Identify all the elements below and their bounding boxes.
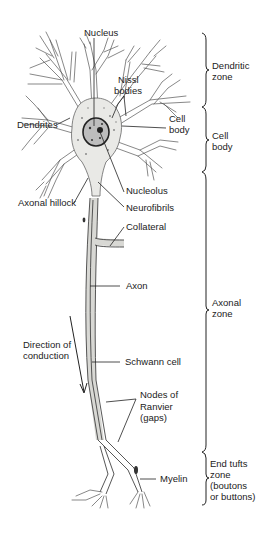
neuron-diagram: Nucleus Nissl bodies Cell body Dendrites… <box>0 0 264 541</box>
label-nodes-1: Nodes of <box>140 389 178 400</box>
label-dendrites: Dendrites <box>17 119 58 130</box>
label-direction-1: Direction of <box>23 339 71 350</box>
brace-cell-body <box>202 107 209 172</box>
label-nissl-1: Nissl <box>118 74 139 85</box>
zone-cellbody-1: Cell <box>212 130 228 141</box>
structure-labels: Nucleus Nissl bodies Cell body Dendrites… <box>17 27 190 484</box>
label-direction-2: conduction <box>23 350 69 361</box>
zone-endtufts-3: (boutons <box>210 480 247 491</box>
zone-braces <box>202 33 209 505</box>
label-neurofibrils: Neurofibrils <box>126 202 174 213</box>
nucleus-shape <box>83 118 109 146</box>
label-myelin: Myelin <box>160 473 187 484</box>
zone-axonal-2: zone <box>212 308 233 319</box>
zone-endtufts-1: End tufts <box>210 458 248 469</box>
brace-axonal <box>202 172 209 452</box>
label-axonal-hillock: Axonal hillock <box>18 197 76 208</box>
label-cell-body-2: body <box>169 124 190 135</box>
label-nodes-2: Ranvier <box>140 401 173 412</box>
zone-endtufts-4: or buttons) <box>210 491 255 502</box>
label-nissl-2: bodies <box>114 85 142 96</box>
direction-arrow <box>70 316 87 393</box>
label-collateral: Collateral <box>126 221 166 232</box>
label-schwann-cell: Schwann cell <box>125 356 181 367</box>
zone-labels: Dendritic zone Cell body Axonal zone End… <box>210 60 255 502</box>
brace-end-tufts <box>202 452 209 505</box>
label-cell-body-1: Cell <box>169 113 185 124</box>
zone-dendritic-2: zone <box>212 71 233 82</box>
label-nucleolus: Nucleolus <box>126 185 168 196</box>
label-nodes-3: (gaps) <box>140 412 167 423</box>
zone-endtufts-2: zone <box>210 469 231 480</box>
label-nucleus: Nucleus <box>84 27 119 38</box>
zone-dendritic-1: Dendritic <box>212 60 250 71</box>
zone-cellbody-2: body <box>212 141 233 152</box>
brace-dendritic <box>202 33 209 107</box>
zone-axonal-1: Axonal <box>212 297 241 308</box>
label-axon: Axon <box>126 280 148 291</box>
